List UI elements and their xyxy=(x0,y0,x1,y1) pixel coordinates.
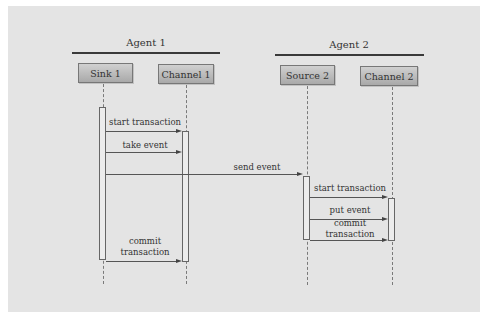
message-label-start-transaction-2: start transaction xyxy=(312,183,388,194)
activation-channel2 xyxy=(388,198,395,241)
arrowhead-icon xyxy=(176,150,182,154)
group-label-agent1: Agent 1 xyxy=(71,37,221,48)
activation-channel1 xyxy=(182,131,189,262)
message-label-commit-line2-agent1: transaction xyxy=(108,247,182,258)
message-label-put-event: put event xyxy=(312,205,388,216)
message-label-commit-line2-agent2: transaction xyxy=(312,229,388,240)
participant-source2: Source 2 xyxy=(280,65,335,85)
lifeline-channel2 xyxy=(392,87,393,285)
message-arrow-start-transaction-2 xyxy=(310,197,382,198)
arrowhead-icon xyxy=(176,129,182,133)
message-arrow-start-transaction-1 xyxy=(106,131,176,132)
message-label-send-event: send event xyxy=(220,162,294,173)
message-arrow-take-event xyxy=(106,152,176,153)
message-label-commit-line1-agent1: commit xyxy=(108,236,182,247)
participant-sink1: Sink 1 xyxy=(78,63,133,83)
activation-sink1 xyxy=(99,107,106,260)
message-label-start-transaction-1: start transaction xyxy=(108,117,182,128)
message-arrow-commit-transaction-1 xyxy=(106,261,176,262)
participant-channel1: Channel 1 xyxy=(158,64,214,84)
activation-source2 xyxy=(303,176,310,240)
message-label-take-event: take event xyxy=(108,140,182,151)
group-label-agent2: Agent 2 xyxy=(274,39,424,50)
message-arrow-send-event xyxy=(106,174,297,175)
arrowhead-icon xyxy=(382,195,388,199)
arrowhead-icon xyxy=(176,259,182,263)
arrowhead-icon xyxy=(297,172,303,176)
message-label-commit-line1-agent2: commit xyxy=(312,218,388,229)
group-underline-agent2 xyxy=(275,54,424,56)
group-underline-agent1 xyxy=(72,52,220,54)
message-arrow-commit-transaction-2 xyxy=(310,240,382,241)
participant-channel2: Channel 2 xyxy=(360,66,418,86)
arrowhead-icon xyxy=(382,238,388,242)
